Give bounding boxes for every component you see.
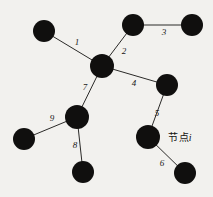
annotated-node-i: [136, 125, 160, 149]
edge-label-7: 7: [83, 83, 88, 92]
edge-label-3: 3: [162, 28, 167, 37]
edge-label-2: 2: [122, 47, 127, 56]
nodes-group: [13, 14, 203, 184]
bottom-right-node: [174, 162, 196, 184]
top-right-node: [181, 14, 203, 36]
right-middle-node: [156, 74, 178, 96]
edge-label-4: 4: [132, 79, 137, 88]
far-left-node: [13, 128, 35, 150]
edge-label-6: 6: [160, 159, 165, 168]
node-i-annotation: 节点i: [168, 129, 191, 144]
top-left-node: [33, 20, 55, 42]
edge-label-9: 9: [50, 114, 55, 123]
top-middle-node: [122, 14, 144, 36]
edge-label-8: 8: [73, 141, 78, 150]
edge-label-1: 1: [75, 38, 80, 47]
graph-canvas: [0, 0, 213, 197]
annotation-variable-i: i: [189, 132, 192, 143]
annotation-label-text: 节点: [168, 132, 188, 143]
bottom-left-node: [72, 161, 94, 183]
edge-label-5: 5: [155, 109, 160, 118]
lower-left-hub-node: [65, 105, 89, 129]
center-hub-node: [90, 54, 114, 78]
edges-group: [24, 25, 192, 173]
network-graph-figure: 123456789 节点i: [0, 0, 213, 197]
